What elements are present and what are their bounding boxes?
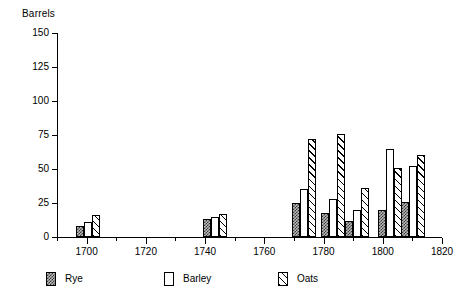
y-tick [52,33,57,34]
bar-rye-1699 [76,226,84,237]
legend-item-rye[interactable]: Rye [46,272,83,286]
x-tick-major [264,238,265,244]
x-axis-line [57,237,442,238]
y-tick-label: 25 [15,198,49,208]
x-tick-label: 1740 [185,246,225,257]
legend-item-barley[interactable]: Barley [164,272,211,286]
y-tick [52,135,57,136]
y-tick-label: 125 [15,62,49,72]
y-tick [52,169,57,170]
y-tick-label: 150 [15,28,49,38]
y-tick-label: 100 [15,96,49,106]
x-tick-label: 1820 [422,246,462,257]
bar-oats-1772 [308,139,316,237]
y-tick [52,203,57,204]
legend-label: Barley [183,274,211,284]
bar-rye-1742 [203,219,211,237]
bar-rye-1809 [401,202,409,237]
x-tick-minor [175,238,176,241]
bar-barley-1699 [84,222,92,237]
bar-oats-1699 [92,215,100,237]
y-axis-title: Barrels [22,8,55,19]
y-axis-line [57,33,58,237]
bar-oats-1809 [417,155,425,237]
x-tick-label: 1760 [244,246,284,257]
x-tick-label: 1720 [126,246,166,257]
bar-barley-1782 [329,199,337,237]
bar-rye-1772 [292,203,300,237]
x-tick-label: 1780 [304,246,344,257]
bar-rye-1782 [321,213,329,237]
x-tick-minor [235,238,236,241]
legend-swatch-oats-icon [278,272,288,286]
y-tick-label: 0 [15,232,49,242]
bar-barley-1801 [386,149,394,237]
legend-label: Rye [65,274,83,284]
bar-oats-1790 [361,188,369,237]
x-tick-major [324,238,325,244]
bar-barley-1809 [409,166,417,237]
x-tick-minor [412,238,413,241]
bar-barley-1772 [300,189,308,237]
x-tick-label: 1700 [67,246,107,257]
legend-item-oats[interactable]: Oats [278,272,318,286]
x-tick-major [205,238,206,244]
y-tick [52,101,57,102]
x-tick-minor [116,238,117,241]
y-tick-label: 75 [15,130,49,140]
bar-oats-1742 [219,214,227,237]
x-tick-label: 1800 [363,246,403,257]
x-tick-major [87,238,88,244]
bar-barley-1742 [211,217,219,237]
x-tick-major [442,238,443,244]
legend-label: Oats [297,274,318,284]
x-tick-major [383,238,384,244]
chart-legend: RyeBarleyOats [46,272,346,292]
bar-rye-1790 [345,221,353,237]
x-tick-major [146,238,147,244]
bar-chart: Barrels 0255075100125150 170017201740176… [0,0,465,300]
x-tick-minor [294,238,295,241]
x-tick-minor [353,238,354,241]
bar-barley-1790 [353,210,361,237]
y-tick [52,67,57,68]
x-tick-minor [57,238,58,241]
legend-swatch-rye-icon [46,272,56,286]
bar-rye-1801 [378,210,386,237]
y-tick-label: 50 [15,164,49,174]
legend-swatch-barley-icon [164,272,174,286]
plot-area: 0255075100125150 17001720174017601780180… [57,33,442,237]
